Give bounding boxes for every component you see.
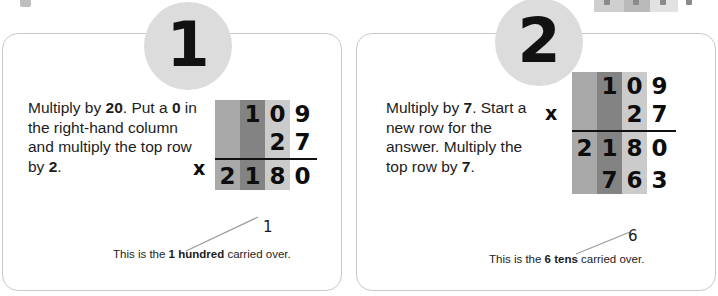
fragment-digit	[604, 0, 610, 5]
digit-cell: 0	[215, 100, 240, 128]
instruction-text: Multiply by	[386, 99, 464, 116]
instruction-emphasis: 20	[106, 99, 123, 116]
multiply-operator-2: x	[545, 102, 557, 124]
carried-digit-2: 6	[628, 227, 638, 245]
multiplication-grid-2: 0 1 0 9 0 0 2 7 2 1 8 0 0 7 6 3	[572, 72, 672, 194]
instruction-text: .	[470, 158, 474, 175]
caption-text: This is the	[489, 253, 545, 265]
ink-fragment	[20, 0, 31, 7]
fragment-digit	[633, 0, 639, 5]
digit-cell: 7	[597, 166, 622, 194]
digit-cell: 0	[265, 100, 290, 128]
digit-cell: 1	[240, 162, 265, 190]
calc-row-partial-product: 2 1 8 0	[215, 162, 315, 190]
digit-cell: 7	[290, 128, 315, 156]
calc-rule-2	[572, 130, 676, 132]
digit-cell: 1	[597, 72, 622, 100]
step-instruction-1: Multiply by 20. Put a 0 in the right-han…	[28, 98, 198, 176]
leader-line-2	[562, 230, 652, 260]
calc-rule-1	[215, 158, 317, 160]
multiplication-grid-1: 0 1 0 9 0 0 2 7 2 1 8 0 x	[215, 100, 315, 190]
digit-cell: 0	[290, 162, 315, 190]
calc-row-partial-product-1: 2 1 8 0	[572, 134, 672, 162]
step-number-1: 1	[166, 14, 209, 76]
digit-cell: 0	[597, 100, 622, 128]
digit-cell: 0	[215, 128, 240, 156]
digit-rows-2: 0 1 0 9 0 0 2 7 2 1 8 0 0 7 6 3	[572, 72, 672, 194]
digit-cell: 3	[647, 166, 672, 194]
step-number-2: 2	[517, 10, 560, 72]
digit-cell: 1	[597, 134, 622, 162]
digit-rows-1: 0 1 0 9 0 0 2 7 2 1 8 0	[215, 100, 315, 190]
digit-cell: 7	[647, 100, 672, 128]
digit-cell: 0	[622, 72, 647, 100]
digit-cell: 0	[572, 166, 597, 194]
step-badge-1: 1	[144, 2, 232, 90]
calc-row-multiplier: 0 0 2 7	[572, 100, 672, 128]
digit-cell: 2	[265, 128, 290, 156]
digit-cell: 0	[572, 72, 597, 100]
instruction-text: .	[57, 158, 61, 175]
worksheet-stage: 1 Multiply by 20. Put a 0 in the right-h…	[0, 0, 718, 296]
fragment-digit	[660, 0, 666, 5]
digit-cell: 9	[647, 72, 672, 100]
calc-row-multiplicand: 0 1 0 9	[572, 72, 672, 100]
leader-line-1	[130, 215, 270, 255]
step-instruction-2: Multiply by 7. Start a new row for the a…	[386, 98, 536, 176]
calc-row-multiplier: 0 0 2 7	[215, 128, 315, 156]
step-badge-2: 2	[495, 0, 583, 86]
carried-digit-1: 1	[263, 218, 273, 236]
instruction-text: . Put a	[123, 99, 172, 116]
digit-cell: 8	[265, 162, 290, 190]
calc-row-partial-product-2: 0 7 6 3	[572, 166, 672, 194]
digit-cell: 6	[622, 166, 647, 194]
digit-cell: 2	[622, 100, 647, 128]
instruction-emphasis: 0	[172, 99, 181, 116]
fragment-digit	[686, 0, 692, 5]
digit-cell: 2	[572, 134, 597, 162]
digit-cell: 0	[572, 100, 597, 128]
instruction-emphasis: 7	[464, 99, 473, 116]
digit-cell: 0	[647, 134, 672, 162]
instruction-text: Multiply by	[28, 99, 106, 116]
calc-row-multiplicand: 0 1 0 9	[215, 100, 315, 128]
digit-cell: 9	[290, 100, 315, 128]
digit-cell: 2	[215, 162, 240, 190]
digit-cell: 8	[622, 134, 647, 162]
cropped-text-fragment-above	[6, 0, 58, 14]
digit-cell: 1	[240, 100, 265, 128]
cropped-grid-fragment-above	[580, 0, 718, 14]
digit-cell: 0	[240, 128, 265, 156]
multiply-operator-1: x	[193, 157, 205, 179]
